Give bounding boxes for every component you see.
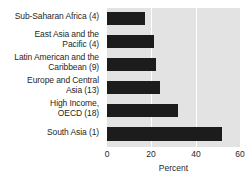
bar-row	[107, 81, 240, 94]
category-label-east-asia-and-the-pacific: East Asia and the Pacific (4)	[0, 30, 99, 49]
category-label-line: OECD (18)	[0, 109, 99, 119]
xtick-label-0: 0	[96, 150, 118, 159]
bar-latin-american-and-the-caribbean[interactable]	[107, 58, 156, 71]
bar-east-asia-and-the-pacific[interactable]	[107, 35, 154, 48]
category-label-line: South Asia (1)	[0, 128, 99, 138]
xtick-label-40: 40	[185, 150, 207, 159]
bar-row	[107, 35, 240, 48]
bars-layer	[107, 8, 240, 147]
bar-high-income-oecd[interactable]	[107, 104, 178, 117]
bar-row	[107, 104, 240, 117]
category-label-high-income-oecd: High Income, OECD (18)	[0, 99, 99, 118]
xtick-label-20: 20	[140, 150, 162, 159]
bar-chart: Sub-Saharan Africa (4) East Asia and the…	[0, 0, 250, 178]
category-label-line: Pacific (4)	[0, 40, 99, 50]
category-label-latin-american-and-the-caribbean: Latin American and the Caribbean (9)	[0, 53, 99, 72]
bar-europe-and-central-asia[interactable]	[107, 81, 160, 94]
category-label-europe-and-central-asia: Europe and Central Asia (13)	[0, 76, 99, 95]
bar-sub-saharan-africa[interactable]	[107, 12, 145, 25]
category-label-line: Sub-Saharan Africa (4)	[0, 12, 99, 22]
xtick-label-60: 60	[229, 150, 250, 159]
bar-south-asia[interactable]	[107, 127, 222, 141]
category-label-sub-saharan-africa: Sub-Saharan Africa (4)	[0, 12, 99, 22]
category-label-south-asia: South Asia (1)	[0, 128, 99, 138]
xaxis-title: Percent	[107, 164, 240, 173]
bar-row	[107, 58, 240, 71]
bar-row	[107, 12, 240, 25]
category-axis-labels: Sub-Saharan Africa (4) East Asia and the…	[0, 8, 103, 147]
cropped-chart-title	[6, 0, 176, 4]
category-label-line: Caribbean (9)	[0, 63, 99, 73]
bar-row	[107, 127, 240, 141]
category-label-line: Asia (13)	[0, 86, 99, 96]
